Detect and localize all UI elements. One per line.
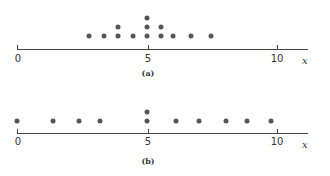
x-axis-line [17,49,308,50]
data-point [171,34,176,39]
dot-plot-a: 0 5 10 x (a) [0,0,330,90]
data-point [145,34,150,39]
x-tick-5 [148,129,149,133]
x-tick-10 [277,45,278,49]
data-point [245,119,250,124]
data-point [102,34,107,39]
data-point [116,25,121,30]
dot-plot-b: 0 5 10 x (b) [0,90,330,176]
data-point [51,119,56,124]
x-tick-10 [277,129,278,133]
data-point [145,119,150,124]
caption-a: (a) [142,68,155,78]
x-tick-label-0: 0 [15,136,21,147]
data-point [224,119,229,124]
data-point [145,16,150,21]
x-tick-label-10: 10 [271,136,284,147]
x-axis-label: x [302,55,308,66]
x-tick-5 [148,45,149,49]
data-point [189,34,194,39]
data-point [77,119,82,124]
data-point [98,119,103,124]
x-tick-label-5: 5 [145,136,151,147]
x-tick-0 [17,45,18,49]
x-axis-line [17,133,308,134]
x-tick-label-10: 10 [271,53,284,64]
x-tick-0 [17,129,18,133]
data-point [130,34,135,39]
data-point [197,119,202,124]
data-point [86,34,91,39]
x-tick-label-0: 0 [15,53,21,64]
caption-b: (b) [141,156,154,166]
x-tick-label-5: 5 [145,53,151,64]
data-point [159,25,164,30]
data-point [145,25,150,30]
data-point [159,34,164,39]
data-point [145,110,150,115]
data-point [15,119,20,124]
data-point [173,119,178,124]
data-point [116,34,121,39]
data-point [268,119,273,124]
data-point [208,34,213,39]
x-axis-label: x [302,139,308,150]
